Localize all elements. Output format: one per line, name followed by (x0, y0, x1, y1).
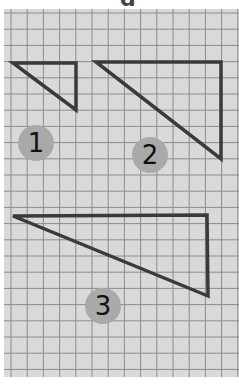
badge-number: 1 (28, 130, 45, 156)
badge-number: 2 (142, 142, 159, 168)
triangle-1 (13, 63, 76, 110)
diagram-canvas (0, 0, 239, 389)
label-badge-3: 3 (85, 288, 121, 324)
badge-number: 3 (95, 293, 112, 319)
label-badge-2: 2 (132, 137, 168, 173)
label-badge-1: 1 (18, 125, 54, 161)
